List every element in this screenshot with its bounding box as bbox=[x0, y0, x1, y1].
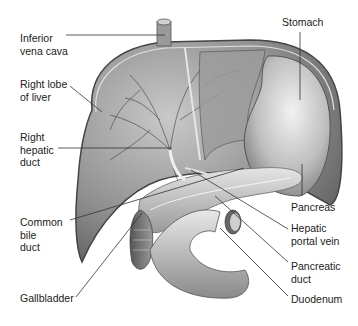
inferior-vena-cava bbox=[157, 19, 171, 46]
gallbladder bbox=[130, 210, 153, 269]
label-right-lobe-of-liver: Right lobe of liver bbox=[20, 78, 67, 103]
label-pancreatic-duct: Pancreatic duct bbox=[291, 260, 341, 285]
label-duodenum: Duodenum bbox=[291, 293, 342, 306]
label-pancreas: Pancreas bbox=[291, 201, 335, 214]
label-common-bile-duct: Common bile duct bbox=[20, 216, 63, 254]
label-stomach: Stomach bbox=[282, 16, 323, 29]
label-hepatic-portal-vein: Hepatic portal vein bbox=[291, 222, 339, 247]
label-right-hepatic-duct: Right hepatic duct bbox=[20, 131, 54, 169]
label-inferior-vena-cava: Inferior vena cava bbox=[20, 32, 68, 57]
anatomy-figure: Inferior vena cava Right lobe of liver R… bbox=[0, 0, 358, 326]
leader-pancreatic-duct bbox=[215, 196, 288, 262]
label-gallbladder: Gallbladder bbox=[20, 292, 74, 305]
